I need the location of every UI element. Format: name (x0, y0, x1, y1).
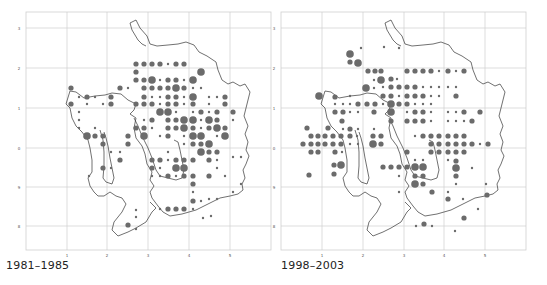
occurrence-dot (372, 101, 377, 106)
occurrence-dot (404, 101, 409, 106)
y-tick-label: 9 (273, 185, 276, 190)
occurrence-dot (404, 84, 409, 89)
y-tick-label: 2 (273, 66, 276, 71)
occurrence-dot (447, 159, 449, 161)
occurrence-dot (322, 133, 327, 138)
occurrence-dot (369, 140, 377, 148)
x-tick-label: 3 (403, 253, 406, 258)
occurrence-dot (306, 172, 311, 177)
occurrence-dot (357, 143, 359, 145)
occurrence-dot (308, 141, 313, 146)
occurrence-dot (339, 118, 344, 123)
occurrence-dot (461, 141, 466, 146)
occurrence-dot (455, 183, 457, 185)
occurrence-dot (430, 111, 432, 113)
occurrence-dot (463, 120, 465, 122)
map-frame (281, 12, 526, 250)
occurrence-dot (445, 133, 450, 138)
occurrence-dot (414, 103, 416, 105)
occurrence-dot (370, 133, 375, 138)
occurrence-dot (414, 159, 416, 161)
occurrence-dot (461, 109, 466, 114)
occurrence-dot (396, 84, 401, 89)
occurrence-dot (341, 151, 343, 153)
occurrence-dot (396, 78, 398, 80)
occurrence-dot (357, 128, 359, 130)
occurrence-dot (428, 141, 433, 146)
occurrence-dot (398, 191, 400, 193)
occurrence-dot (420, 181, 425, 186)
occurrence-dot (469, 118, 474, 123)
occurrence-dot (349, 111, 351, 113)
occurrence-dot (398, 47, 400, 49)
occurrence-dot (461, 149, 466, 154)
occurrence-dot (342, 128, 344, 130)
occurrence-dot (355, 101, 360, 106)
x-tick-label: 5 (484, 253, 487, 258)
occurrence-dot (373, 128, 375, 130)
occurrence-dot (338, 141, 343, 146)
occurrence-dot (322, 141, 327, 146)
occurrence-dot (412, 173, 417, 178)
distribution-map-1998-2003: 12345321098 (0, 0, 547, 285)
occurrence-dot (342, 103, 344, 105)
occurrence-dot (411, 180, 419, 188)
occurrence-dot (325, 125, 330, 130)
occurrence-dot (332, 94, 337, 99)
occurrence-dot (349, 95, 351, 97)
occurrence-dot (428, 133, 433, 138)
occurrence-dot (429, 189, 434, 194)
occurrence-dot (411, 163, 419, 171)
y-tick-label: 1 (273, 106, 276, 111)
occurrence-dot (330, 133, 335, 138)
occurrence-dot (436, 141, 441, 146)
occurrence-dot (455, 70, 457, 72)
occurrence-dot (315, 141, 320, 146)
occurrence-dot (447, 111, 449, 113)
occurrence-dot (422, 103, 424, 105)
occurrence-dot (462, 198, 464, 200)
x-tick-label: 4 (443, 253, 446, 258)
occurrence-dot (396, 101, 401, 106)
occurrence-dot (420, 118, 425, 123)
occurrence-dot (477, 109, 482, 114)
occurrence-dot (453, 173, 458, 178)
occurrence-dot (378, 68, 383, 73)
occurrence-dot (485, 141, 490, 146)
occurrence-dot (428, 149, 433, 154)
occurrence-dot (377, 76, 385, 84)
occurrence-dot (453, 149, 458, 154)
occurrence-dot (378, 133, 383, 138)
occurrence-dot (420, 93, 425, 98)
occurrence-dot (445, 141, 450, 146)
occurrence-dot (455, 111, 457, 113)
occurrence-dot (382, 86, 384, 88)
occurrence-dot (382, 103, 384, 105)
occurrence-dot (347, 59, 352, 64)
occurrence-dot (362, 84, 370, 92)
occurrence-dot (447, 191, 449, 193)
occurrence-dot (461, 68, 466, 73)
occurrence-dot (477, 208, 479, 210)
occurrence-dot (453, 133, 458, 138)
occurrence-dot (428, 68, 433, 73)
occurrence-dot (469, 141, 474, 146)
occurrence-dot (388, 84, 393, 89)
occurrence-dot (461, 215, 466, 220)
occurrence-dot (430, 86, 432, 88)
occurrence-dot (419, 163, 427, 171)
occurrence-dot (461, 133, 466, 138)
occurrence-dot (431, 225, 433, 227)
occurrence-dot (404, 93, 409, 98)
x-tick-label: 2 (362, 253, 365, 258)
occurrence-dot (438, 70, 440, 72)
occurrence-dot (378, 141, 383, 146)
occurrence-dot (300, 141, 305, 146)
occurrence-dot (414, 135, 416, 137)
occurrence-dot (455, 120, 457, 122)
occurrence-dot (453, 158, 458, 163)
occurrence-dot (447, 86, 449, 88)
occurrence-dot (445, 68, 450, 73)
occurrence-dot (453, 93, 458, 98)
occurrence-dot (412, 84, 417, 89)
